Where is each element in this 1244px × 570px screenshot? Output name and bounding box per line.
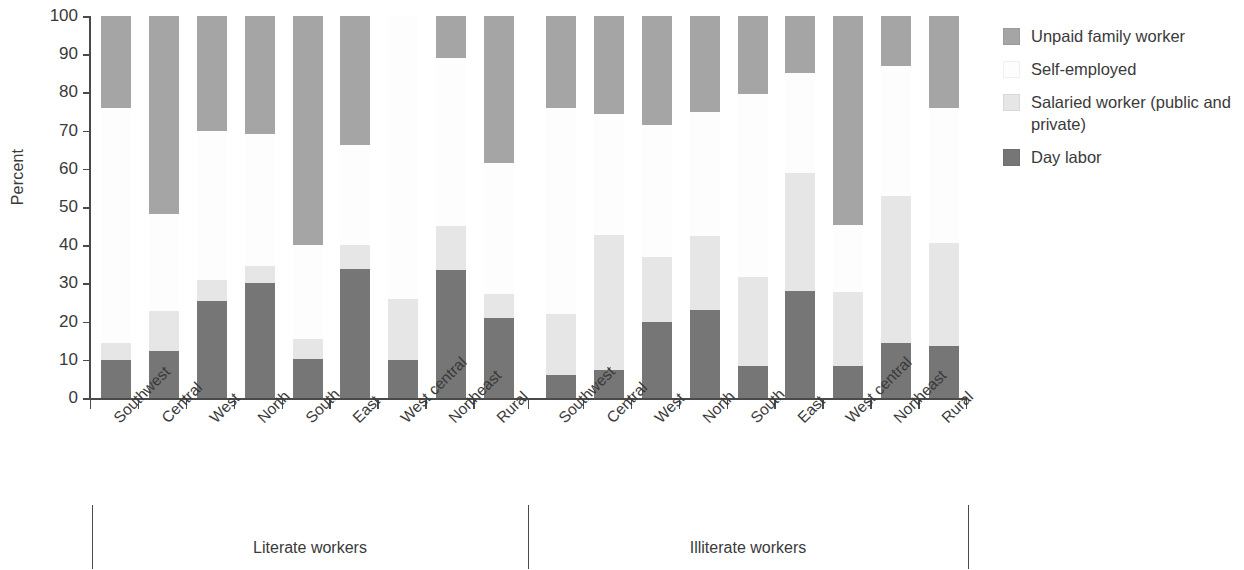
bar-segment [881, 196, 911, 342]
bar-segment [785, 291, 815, 398]
bar-segment [642, 125, 672, 258]
bar-segment [484, 16, 514, 163]
y-axis-tick [83, 245, 90, 247]
bar-segment [101, 108, 131, 343]
bar-segment [546, 16, 576, 108]
stacked-bar-chart: Percent 1009080706050403020100 Southwest… [0, 0, 1244, 570]
y-axis-tick-label: 40 [38, 235, 78, 255]
bar-segment [340, 245, 370, 269]
bar-segment [690, 16, 720, 112]
bar-segment [245, 283, 275, 398]
bar-segment [197, 301, 227, 398]
bar-segment [293, 359, 323, 398]
bar-segment [149, 311, 179, 351]
bar-segment [388, 360, 418, 398]
bar-segment [388, 16, 418, 299]
y-axis-tick-label: 100 [38, 6, 78, 26]
legend-item[interactable]: Day labor [1003, 147, 1243, 169]
stacked-bar [340, 16, 370, 398]
legend-item-label: Day labor [1031, 147, 1102, 169]
stacked-bar [833, 16, 863, 398]
bar-segment [738, 366, 768, 398]
bar-segment [594, 114, 624, 234]
legend-item[interactable]: Self-employed [1003, 59, 1243, 81]
legend-swatch-icon [1003, 61, 1020, 78]
x-axis-category-label: East [349, 392, 384, 427]
legend: Unpaid family workerSelf-employedSalarie… [1003, 26, 1243, 180]
bar-segment [388, 299, 418, 359]
bar-segment [340, 16, 370, 145]
legend-item-label: Salaried worker (public and private) [1031, 92, 1243, 136]
y-axis-tick-label: 60 [38, 159, 78, 179]
bar-segment [833, 366, 863, 398]
y-axis-tick-label: 80 [38, 82, 78, 102]
bar-segment [197, 280, 227, 301]
y-axis-tick-label: 20 [38, 312, 78, 332]
bar-segment [738, 16, 768, 94]
stacked-bar [197, 16, 227, 398]
bar-segment [785, 173, 815, 291]
stacked-bar [388, 16, 418, 398]
bar-segment [833, 225, 863, 292]
bar-segment [833, 292, 863, 366]
x-axis-category-label: East [794, 392, 829, 427]
bar-segment [690, 112, 720, 237]
y-axis-tick [83, 360, 90, 362]
bar-segment [149, 16, 179, 213]
y-axis-tick [83, 207, 90, 209]
bar-segment [101, 343, 131, 360]
bar-segment [881, 16, 911, 66]
bar-segment [484, 163, 514, 294]
bar-segment [546, 314, 576, 375]
y-axis-tick [83, 322, 90, 324]
bar-segment [594, 235, 624, 371]
bar-segment [738, 94, 768, 277]
legend-item-label: Self-employed [1031, 59, 1136, 81]
bar-segment [642, 16, 672, 125]
y-axis-tick [83, 169, 90, 171]
x-axis-category-labels: SouthwestCentralWestNorthSouthEastWest c… [0, 398, 1244, 508]
plot-area: 1009080706050403020100 [90, 16, 966, 398]
bar-segment [929, 108, 959, 244]
bar-segment [340, 269, 370, 398]
bar-segment [436, 16, 466, 58]
legend-swatch-icon [1003, 149, 1020, 166]
bar-segment [436, 58, 466, 226]
y-axis-tick-label: 90 [38, 44, 78, 64]
y-axis-tick [83, 92, 90, 94]
stacked-bar [785, 16, 815, 398]
legend-swatch-icon [1003, 28, 1020, 45]
bar-segment [881, 66, 911, 196]
stacked-bar [149, 16, 179, 398]
bar-segment [642, 257, 672, 321]
bar-segment [594, 16, 624, 114]
legend-item[interactable]: Unpaid family worker [1003, 26, 1243, 48]
group-label: Illiterate workers [690, 539, 806, 557]
legend-item[interactable]: Salaried worker (public and private) [1003, 92, 1243, 136]
bar-segment [690, 236, 720, 310]
group-bracket-edge [528, 505, 529, 569]
stacked-bar [245, 16, 275, 398]
bar-segment [785, 73, 815, 172]
group-bracket-edge [968, 505, 969, 569]
y-axis-title: Percent [9, 137, 27, 217]
y-axis-tick [83, 131, 90, 133]
y-axis-tick-label: 70 [38, 121, 78, 141]
stacked-bar [436, 16, 466, 398]
bar-segment [690, 310, 720, 398]
stacked-bar [293, 16, 323, 398]
stacked-bar [881, 16, 911, 398]
bar-series-container [90, 16, 966, 398]
bar-segment [197, 131, 227, 280]
bar-segment [738, 277, 768, 366]
bar-segment [293, 339, 323, 359]
stacked-bar [484, 16, 514, 398]
group-bracket-edge [92, 505, 93, 569]
legend-item-label: Unpaid family worker [1031, 26, 1185, 48]
bar-segment [929, 16, 959, 108]
bar-segment [101, 360, 131, 398]
bar-segment [546, 375, 576, 398]
stacked-bar [101, 16, 131, 398]
bar-segment [245, 266, 275, 282]
stacked-bar [738, 16, 768, 398]
